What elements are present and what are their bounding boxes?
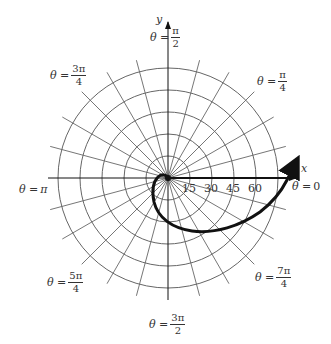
theta-prefix: θ = [47,277,66,288]
theta-prefix: θ = [292,181,311,192]
label-theta-5pi-over-4: θ = 5π4 [47,271,83,294]
spoke-165deg [50,146,168,178]
x-axis-label: x [301,162,307,175]
spoke-240deg [107,178,168,284]
denominator: 4 [76,76,82,87]
fraction: 3π4 [71,64,86,87]
numerator: 3π [170,313,185,325]
label-theta-zero: θ = 0 [292,181,320,192]
spoke-285deg [168,178,200,296]
spoke-195deg [50,178,168,210]
label-theta-3pi-over-2: θ = 3π2 [149,313,185,336]
numerator: 7π [276,266,291,278]
theta-prefix: θ = [149,319,168,330]
spoke-15deg [168,146,286,178]
tick-45: 45 [226,182,240,195]
denominator: 2 [175,325,181,336]
label-theta-pi-over-2: θ = π2 [150,26,180,49]
fraction: 5π4 [68,271,83,294]
numerator: π [171,26,180,38]
spoke-60deg [168,72,229,178]
spoke-45deg [168,92,254,178]
denominator: 4 [73,283,79,294]
spoke-120deg [107,72,168,178]
denominator: 4 [279,82,285,93]
theta-prefix: θ = [19,184,38,195]
spoke-225deg [82,178,168,264]
theta-value: π [40,184,47,195]
tick-60: 60 [248,182,262,195]
denominator: 4 [281,278,287,289]
spoke-135deg [82,92,168,178]
spoke-75deg [168,60,200,178]
theta-prefix: θ = [255,272,274,283]
theta-prefix: θ = [150,32,169,43]
spoke-30deg [168,117,274,178]
numerator: π [278,70,287,82]
label-theta-pi-over-4: θ = π4 [257,70,287,93]
label-theta-7pi-over-4: θ = 7π4 [255,266,291,289]
origin-dot [165,175,171,181]
spoke-150deg [62,117,168,178]
fraction: π2 [171,26,180,49]
fraction: 7π4 [276,266,291,289]
y-axis-label: y [156,13,162,26]
theta-prefix: θ = [50,70,69,81]
fraction: π4 [278,70,287,93]
spoke-105deg [136,60,168,178]
label-theta-3pi-over-4: θ = 3π4 [50,64,86,87]
tick-15: 15 [182,182,196,195]
numerator: 3π [71,64,86,76]
denominator: 2 [172,38,178,49]
numerator: 5π [68,271,83,283]
fraction: 3π2 [170,313,185,336]
label-theta-pi: θ = π [19,184,48,195]
theta-prefix: θ = [257,76,276,87]
theta-value: 0 [313,181,320,192]
tick-30: 30 [204,182,218,195]
